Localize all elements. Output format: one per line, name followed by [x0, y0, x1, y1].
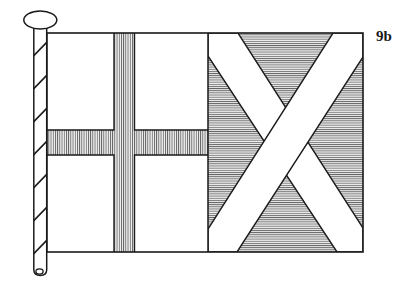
figure-label: 9b — [376, 29, 392, 44]
flag-illustration — [0, 0, 406, 289]
flag-figure: 9b — [0, 0, 406, 289]
nordic-cross-horizontal-bar — [47, 130, 208, 155]
flag-banner — [47, 33, 363, 252]
fly-field — [208, 33, 363, 252]
pole-shaft — [34, 20, 48, 273]
pole-finial-icon — [24, 11, 57, 29]
pole-foot-cap — [36, 269, 43, 274]
